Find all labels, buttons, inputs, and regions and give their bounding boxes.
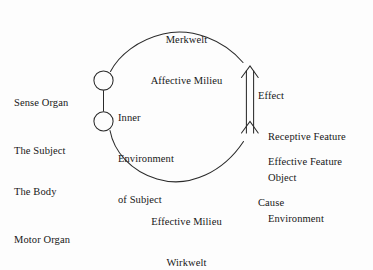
merkwelt-label-line-1: Merkwelt: [0, 33, 373, 47]
object-lower-label: Effective Feature Cause: [258, 128, 342, 237]
inner-environment-label: Inner Environment of Subject: [118, 84, 174, 234]
effective-feature-label: Effective Feature: [258, 155, 342, 169]
sense-organ-label: Sense Organ: [14, 96, 70, 110]
the-subject-label: The Subject: [14, 144, 70, 158]
effect-label: Effect: [258, 89, 346, 103]
inner-environment-label-line-3: of Subject: [118, 193, 174, 207]
inner-environment-label-line-1: Inner: [118, 111, 174, 125]
motor-organ-label: Motor Organ: [14, 233, 70, 247]
cause-label: Cause: [258, 196, 342, 210]
the-body-label: The Body: [14, 185, 70, 199]
inner-environment-label-line-2: Environment: [118, 152, 174, 166]
subject-label: Sense Organ The Subject The Body Motor O…: [14, 69, 70, 270]
object-bar-lower-arrowhead: [242, 122, 259, 134]
